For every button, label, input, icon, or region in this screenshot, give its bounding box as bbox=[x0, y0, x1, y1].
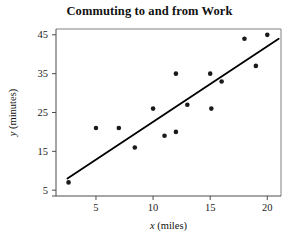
trend-line-segment bbox=[67, 39, 278, 179]
data-point bbox=[208, 71, 213, 76]
trend-line bbox=[67, 39, 278, 179]
x-tick-label: 5 bbox=[93, 202, 98, 213]
data-point bbox=[219, 79, 224, 84]
data-point bbox=[151, 106, 156, 111]
data-point bbox=[94, 126, 99, 131]
x-axis-title-unit: (miles) bbox=[155, 220, 188, 232]
data-point bbox=[174, 71, 179, 76]
x-tick-label: 15 bbox=[205, 202, 216, 213]
x-axis-title: x (miles) bbox=[149, 220, 188, 232]
data-point bbox=[185, 102, 190, 107]
y-axis-title-unit: (minutes) bbox=[7, 88, 19, 131]
y-tick-label: 35 bbox=[38, 68, 49, 79]
x-tick-label: 10 bbox=[148, 202, 159, 213]
y-tick-label: 15 bbox=[38, 146, 49, 157]
data-point bbox=[174, 130, 179, 135]
data-point bbox=[254, 64, 259, 69]
x-tick-label: 20 bbox=[262, 202, 273, 213]
y-axis-ticks: 515253545 bbox=[38, 29, 57, 195]
data-points bbox=[66, 33, 269, 185]
y-tick-label: 25 bbox=[38, 107, 49, 118]
data-point bbox=[209, 106, 214, 111]
data-point bbox=[162, 134, 167, 139]
chart-figure: Commuting to and from Work 515253545 510… bbox=[0, 0, 299, 246]
x-axis-ticks: 5101520 bbox=[93, 196, 272, 213]
data-point bbox=[66, 180, 71, 185]
scatter-plot: 515253545 5101520 x (miles)y (minutes) bbox=[0, 0, 299, 246]
y-axis-title: y (minutes) bbox=[7, 88, 19, 137]
data-point bbox=[117, 126, 122, 131]
data-point bbox=[133, 145, 138, 150]
y-tick-label: 45 bbox=[38, 29, 49, 40]
data-point bbox=[265, 33, 270, 38]
y-tick-label: 5 bbox=[43, 185, 48, 196]
data-point bbox=[242, 36, 247, 41]
